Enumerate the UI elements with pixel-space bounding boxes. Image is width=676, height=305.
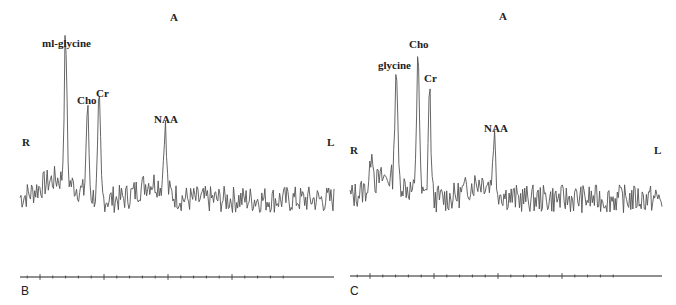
panel-letter-b: B [21,285,29,297]
peak-label-ml-glycine: ml-glycine [42,38,91,49]
spectrum-b-axis [20,274,334,280]
anterior-label: A [170,12,178,23]
anterior-label: A [499,11,507,22]
panel-letter-c: C [350,285,359,297]
spectrum-c-axis [350,273,662,279]
spectrum-panel-c: A glycine Cho Cr NAA R L C [336,0,676,305]
peak-label-naa: NAA [154,114,178,125]
spectrum-c-trace [350,57,662,213]
right-side-label: R [22,137,30,148]
right-side-label: R [350,145,358,156]
spectrum-panel-b: A ml-glycine Cho Cr NAA R L B [0,0,340,305]
peak-label-naa: NAA [484,123,508,134]
peak-label-cho: Cho [409,39,429,50]
peak-label-glycine: glycine [378,60,411,71]
peak-label-cr: Cr [424,73,437,84]
peak-label-cho: Cho [77,95,97,106]
spectrum-c-plot [336,0,676,305]
left-side-label: L [327,137,334,148]
peak-label-cr: Cr [96,88,109,99]
left-side-label: L [654,145,661,156]
